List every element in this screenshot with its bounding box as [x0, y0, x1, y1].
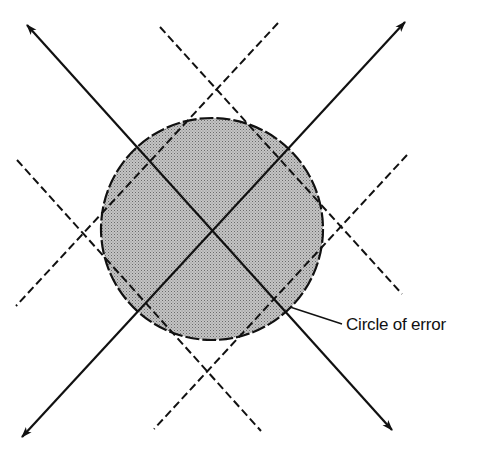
- label-leader-line: [290, 307, 342, 324]
- circle-of-error-label: Circle of error: [346, 315, 446, 335]
- diagram-canvas: Circle of error: [0, 0, 480, 449]
- diagram-svg: [0, 0, 480, 449]
